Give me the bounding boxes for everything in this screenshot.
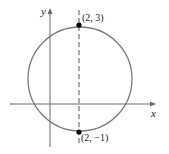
x-axis bbox=[10, 102, 156, 107]
circle bbox=[28, 27, 132, 131]
y-axis bbox=[48, 8, 53, 147]
y-axis-label: y bbox=[40, 5, 46, 17]
point-bottom-label: (2, −1) bbox=[81, 132, 108, 144]
point-top-label: (2, 3) bbox=[82, 12, 104, 24]
x-axis-arrow-icon bbox=[150, 102, 156, 107]
y-axis-arrow-icon bbox=[48, 8, 53, 14]
point-top bbox=[76, 22, 81, 27]
coordinate-diagram: y x (2, 3) (2, −1) bbox=[0, 0, 169, 154]
x-axis-label: x bbox=[150, 107, 156, 119]
